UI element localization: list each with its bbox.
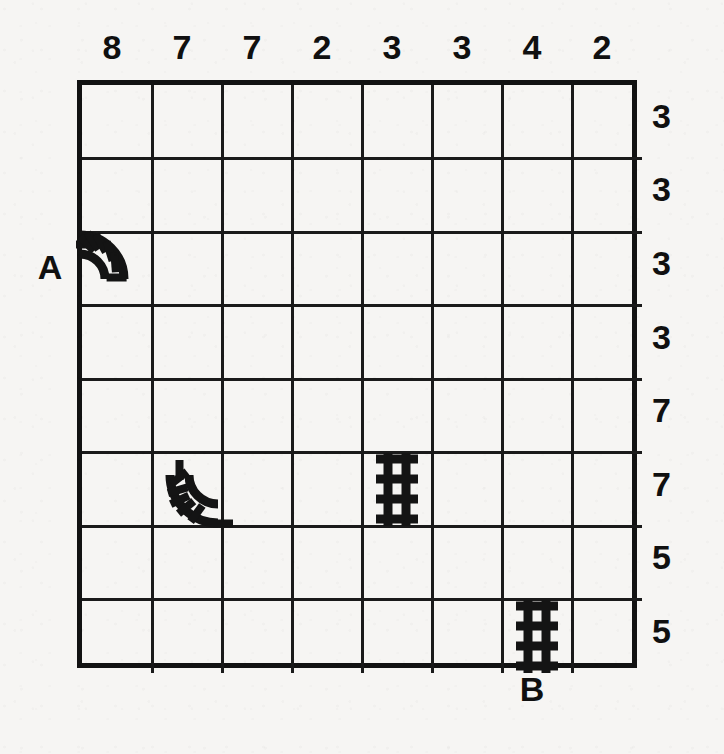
grid-cell-r7c4[interactable] — [292, 526, 362, 600]
grid-cell-r3c8[interactable] — [572, 232, 642, 306]
grid-cell-r5c6[interactable] — [432, 379, 502, 453]
grid-cell-r4c3[interactable] — [222, 306, 292, 380]
column-clue-7: 4 — [497, 30, 567, 66]
column-clue-1: 8 — [77, 30, 147, 66]
endpoint-label-a: A — [30, 250, 70, 284]
grid-cell-r8c2[interactable] — [152, 600, 222, 674]
row-clue-8: 5 — [652, 614, 692, 650]
grid-cell-r1c6[interactable] — [432, 85, 502, 159]
row-clue-1: 3 — [652, 99, 692, 135]
grid-cell-r5c4[interactable] — [292, 379, 362, 453]
grid-cell-r5c2[interactable] — [152, 379, 222, 453]
grid-cell-r4c2[interactable] — [152, 306, 222, 380]
column-clue-2: 7 — [147, 30, 217, 66]
grid-cell-r6c6[interactable] — [432, 453, 502, 527]
row-clue-7: 5 — [652, 540, 692, 576]
row-clue-2: 3 — [652, 172, 692, 208]
grid-cell-r2c2[interactable] — [152, 159, 222, 233]
grid-cell-r7c1[interactable] — [82, 526, 152, 600]
row-clue-5: 7 — [652, 393, 692, 429]
grid-cell-r1c8[interactable] — [572, 85, 642, 159]
grid-cell-r5c7[interactable] — [502, 379, 572, 453]
grid-cell-r1c1[interactable] — [82, 85, 152, 159]
grid-cell-r7c8[interactable] — [572, 526, 642, 600]
grid-cell-r5c1[interactable] — [82, 379, 152, 453]
grid-cell-r5c8[interactable] — [572, 379, 642, 453]
endpoint-label-b: B — [512, 672, 552, 706]
grid-cell-r6c4[interactable] — [292, 453, 362, 527]
grid-cell-r4c1[interactable] — [82, 306, 152, 380]
grid-cell-r4c4[interactable] — [292, 306, 362, 380]
grid-cell-r2c7[interactable] — [502, 159, 572, 233]
column-clue-6: 3 — [427, 30, 497, 66]
grid-cell-r5c5[interactable] — [362, 379, 432, 453]
column-clue-8: 2 — [567, 30, 637, 66]
grid-cell-r1c5[interactable] — [362, 85, 432, 159]
grid-cell-r1c3[interactable] — [222, 85, 292, 159]
grid-cell-r7c2[interactable] — [152, 526, 222, 600]
grid-cell-r2c3[interactable] — [222, 159, 292, 233]
grid-cell-r4c6[interactable] — [432, 306, 502, 380]
grid-cell-r3c2[interactable] — [152, 232, 222, 306]
grid-cell-r2c6[interactable] — [432, 159, 502, 233]
grid-cell-r8c5[interactable] — [362, 600, 432, 674]
grid-cell-r8c7[interactable] — [502, 600, 572, 674]
grid-cell-r8c1[interactable] — [82, 600, 152, 674]
grid-cell-r3c3[interactable] — [222, 232, 292, 306]
grid-cell-r3c1[interactable] — [82, 232, 152, 306]
grid-cell-r2c1[interactable] — [82, 159, 152, 233]
grid-cell-r6c5[interactable] — [362, 453, 432, 527]
column-clue-5: 3 — [357, 30, 427, 66]
grid-cell-r2c8[interactable] — [572, 159, 642, 233]
grid-cell-r2c5[interactable] — [362, 159, 432, 233]
grid-cell-r4c5[interactable] — [362, 306, 432, 380]
grid-cell-r8c8[interactable] — [572, 600, 642, 674]
grid-cell-r7c7[interactable] — [502, 526, 572, 600]
grid-cell-r1c4[interactable] — [292, 85, 362, 159]
grid-cell-r8c6[interactable] — [432, 600, 502, 674]
column-clue-4: 2 — [287, 30, 357, 66]
grid-cell-r6c2[interactable] — [152, 453, 222, 527]
grid-cell-r3c6[interactable] — [432, 232, 502, 306]
row-clue-4: 3 — [652, 320, 692, 356]
grid-cell-r4c8[interactable] — [572, 306, 642, 380]
row-clue-3: 3 — [652, 246, 692, 282]
grid-cell-r3c5[interactable] — [362, 232, 432, 306]
grid-cell-r5c3[interactable] — [222, 379, 292, 453]
grid-cell-r8c3[interactable] — [222, 600, 292, 674]
grid-cell-r7c3[interactable] — [222, 526, 292, 600]
column-clue-3: 7 — [217, 30, 287, 66]
grid-cell-r2c4[interactable] — [292, 159, 362, 233]
grid-cell-r6c8[interactable] — [572, 453, 642, 527]
grid-cell-r4c7[interactable] — [502, 306, 572, 380]
train-tracks-puzzle: 8 7 7 2 3 3 4 2 3 3 3 3 7 7 5 5 A B — [0, 0, 724, 754]
grid-cell-r6c3[interactable] — [222, 453, 292, 527]
grid-cell-r6c1[interactable] — [82, 453, 152, 527]
grid-cell-r6c7[interactable] — [502, 453, 572, 527]
grid-cell-r1c2[interactable] — [152, 85, 222, 159]
row-clue-6: 7 — [652, 467, 692, 503]
grid-cell-r3c4[interactable] — [292, 232, 362, 306]
grid-cell-r1c7[interactable] — [502, 85, 572, 159]
grid-cell-r7c6[interactable] — [432, 526, 502, 600]
grid-cell-r8c4[interactable] — [292, 600, 362, 674]
puzzle-grid[interactable] — [77, 80, 637, 668]
grid-cell-r7c5[interactable] — [362, 526, 432, 600]
grid-cell-r3c7[interactable] — [502, 232, 572, 306]
